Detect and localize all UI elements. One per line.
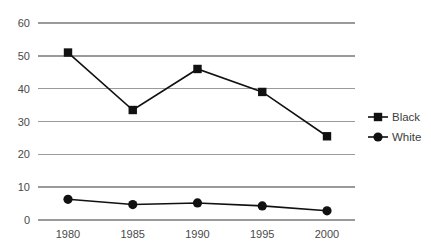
data-point-marker-square (129, 106, 137, 114)
series-white (63, 195, 331, 216)
data-point-marker-circle (322, 206, 331, 215)
data-point-marker-square (193, 65, 201, 73)
data-point-marker-circle (193, 198, 202, 207)
x-axis-tick-label: 1990 (185, 228, 209, 240)
data-point-marker-square (323, 132, 331, 140)
legend-label: White (392, 131, 421, 143)
x-axis-tick-labels: 19801985199019952000 (56, 228, 339, 240)
legend-marker-circle (373, 132, 382, 141)
legend-label: Black (392, 111, 420, 123)
data-point-marker-circle (128, 200, 137, 209)
y-axis-tick-label: 50 (18, 50, 30, 62)
legend-marker-square (374, 113, 382, 121)
chart-canvas: 0102030405060 19801985199019952000 Black… (0, 0, 431, 252)
data-point-marker-circle (258, 201, 267, 210)
gridlines-group (38, 23, 355, 220)
y-axis-tick-labels: 0102030405060 (18, 17, 30, 226)
y-axis-tick-label: 20 (18, 148, 30, 160)
legend-item-black[interactable]: Black (368, 111, 420, 123)
x-axis-tick-label: 1985 (121, 228, 145, 240)
data-point-marker-circle (63, 195, 72, 204)
x-axis-tick-label: 1995 (250, 228, 274, 240)
y-axis-tick-label: 30 (18, 116, 30, 128)
series-black (64, 48, 331, 140)
y-axis-tick-label: 10 (18, 181, 30, 193)
series-group (63, 48, 331, 215)
x-axis-tick-label: 1980 (56, 228, 80, 240)
y-axis-tick-label: 40 (18, 83, 30, 95)
y-axis-tick-label: 0 (24, 214, 30, 226)
legend-item-white[interactable]: White (368, 131, 421, 143)
legend: BlackWhite (368, 111, 421, 143)
data-point-marker-square (258, 88, 266, 96)
y-axis-tick-label: 60 (18, 17, 30, 29)
line-chart: 0102030405060 19801985199019952000 Black… (0, 0, 431, 252)
data-point-marker-square (64, 48, 72, 56)
x-axis-tick-label: 2000 (315, 228, 339, 240)
